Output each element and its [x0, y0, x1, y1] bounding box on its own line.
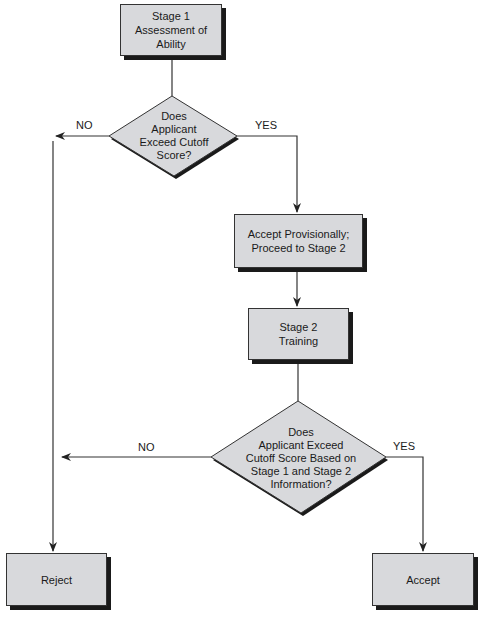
- reject-box: Reject: [6, 553, 107, 606]
- connector-d2-yes: [386, 457, 423, 551]
- accept-box: Accept: [372, 553, 474, 606]
- decision1-text: Does Applicant Exceed Cutoff Score?: [119, 108, 229, 164]
- stage2-box: Stage 2 Training: [248, 308, 349, 360]
- flowchart-connectors: [0, 0, 484, 620]
- stage1-box: Stage 1 Assessment of Ability: [120, 4, 222, 56]
- decision2-yes-label: YES: [393, 440, 415, 452]
- accept-provisional-box: Accept Provisionally; Proceed to Stage 2: [234, 214, 363, 268]
- connector-d1-yes: [237, 136, 297, 212]
- decision1-no-label: NO: [76, 119, 93, 131]
- decision2-no-label: NO: [138, 441, 155, 453]
- decision1-yes-label: YES: [255, 119, 277, 131]
- decision2-text: Does Applicant Exceed Cutoff Score Based…: [226, 421, 376, 495]
